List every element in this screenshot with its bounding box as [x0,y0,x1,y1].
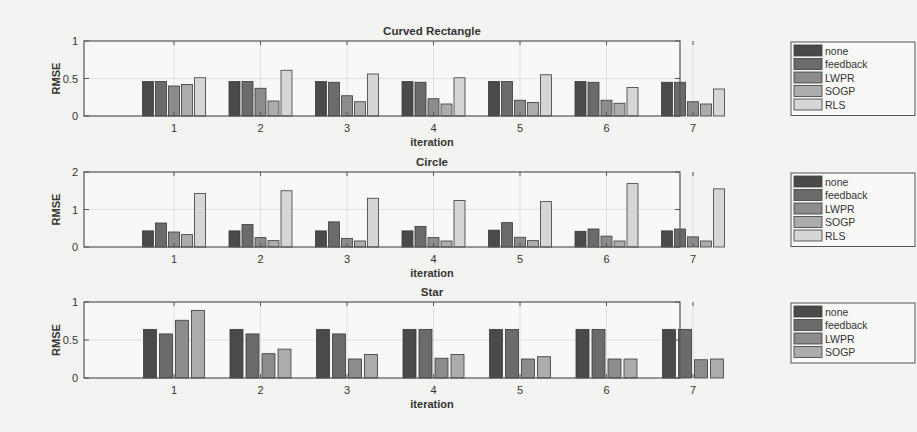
bar-sogp-iter-5 [528,103,539,117]
x-tick-label: 1 [171,122,177,134]
x-tick-label: 2 [257,384,263,396]
bar-feedback-iter-4 [415,226,426,247]
bar-lwpr-iter-4 [435,358,448,378]
legend-label-feedback: feedback [825,58,868,70]
bar-rls-iter-5 [541,202,552,247]
bar-sogp-iter-2 [278,349,291,378]
bar-feedback-iter-5 [502,223,513,247]
bar-lwpr-iter-1 [176,320,189,378]
x-tick-label: 4 [430,122,436,134]
bar-sogp-iter-7 [701,104,712,116]
legend-swatch-sogp [794,347,822,358]
x-tick-label: 3 [344,253,350,265]
legend-swatch-sogp [794,217,822,228]
bar-rls-iter-7 [714,189,725,247]
chart-panel-circle: 1234567012RMSEiterationCirclenonefeedbac… [50,156,915,279]
bar-rls-iter-1 [195,193,206,247]
bar-feedback-iter-2 [242,225,253,248]
bar-feedback-iter-1 [156,223,167,247]
legend-label-none: none [825,176,849,188]
chart-panel-star: 123456700.51RMSEiterationStarnonefeedbac… [50,286,915,410]
bar-sogp-iter-1 [192,310,205,378]
bar-sogp-iter-7 [701,241,712,247]
bar-lwpr-iter-5 [522,359,535,378]
bar-feedback-iter-2 [246,334,259,378]
y-axis-label: RMSE [50,324,62,356]
y-tick-label: 0.5 [63,73,78,85]
legend-swatch-rls [794,230,822,241]
bar-rls-iter-4 [454,201,465,248]
legend-swatch-feedback [794,320,822,331]
bar-feedback-iter-1 [160,334,173,378]
bar-none-iter-1 [143,231,154,247]
legend-label-sogp: SOGP [825,346,855,358]
bar-none-iter-5 [489,230,500,247]
bar-lwpr-iter-2 [262,354,275,378]
y-tick-label: 0 [72,110,78,122]
legend-label-lwpr: LWPR [825,72,855,84]
bar-feedback-iter-6 [592,329,605,378]
bar-sogp-iter-3 [355,102,366,116]
x-tick-label: 7 [690,122,696,134]
legend-swatch-rls [794,99,822,110]
bar-feedback-iter-3 [333,334,346,378]
legend-swatch-none [794,45,822,56]
bar-sogp-iter-4 [441,104,452,116]
bar-none-iter-4 [402,231,413,247]
bar-feedback-iter-4 [415,82,426,116]
legend-swatch-none [794,176,822,187]
bar-rls-iter-6 [627,88,638,117]
bar-rls-iter-6 [627,184,638,247]
bar-none-iter-3 [316,82,327,117]
bar-none-iter-2 [229,231,240,247]
bar-sogp-iter-2 [268,241,279,247]
legend-label-none: none [825,306,849,318]
bar-rls-iter-3 [368,198,379,247]
legend-label-rls: RLS [825,230,845,242]
y-tick-label: 1 [72,204,78,216]
legend-swatch-lwpr [794,203,822,214]
x-tick-label: 3 [344,122,350,134]
bar-rls-iter-2 [281,70,292,116]
x-tick-label: 5 [517,384,523,396]
chart-panel-curved-rectangle: 123456700.51RMSEiterationCurved Rectangl… [50,25,915,148]
bar-sogp-iter-5 [528,241,539,247]
bar-lwpr-iter-3 [349,359,362,378]
bar-sogp-iter-1 [182,85,193,117]
bar-lwpr-iter-6 [608,359,621,378]
bar-lwpr-iter-1 [169,86,180,116]
bar-none-iter-4 [402,82,413,117]
legend-label-rls: RLS [825,99,845,111]
x-tick-label: 3 [344,384,350,396]
bar-feedback-iter-1 [156,82,167,117]
bar-none-iter-6 [576,329,589,378]
bar-none-iter-7 [663,329,676,378]
bar-feedback-iter-6 [588,82,599,116]
bar-rls-iter-4 [454,78,465,116]
y-tick-label: 0.5 [63,334,78,346]
bar-none-iter-6 [575,231,586,247]
legend-label-sogp: SOGP [825,85,855,97]
y-tick-label: 1 [72,35,78,47]
x-tick-label: 2 [257,122,263,134]
y-axis-label: RMSE [50,63,62,95]
bar-none-iter-3 [317,329,330,378]
x-tick-label: 2 [257,253,263,265]
bar-none-iter-5 [490,329,503,378]
bar-feedback-iter-3 [329,222,340,247]
x-axis-label: iteration [410,398,454,410]
bar-lwpr-iter-2 [255,88,266,116]
x-axis-label: iteration [410,136,454,148]
chart-title: Circle [416,156,448,168]
bar-none-iter-2 [229,82,240,117]
legend-swatch-lwpr [794,72,822,83]
bar-feedback-iter-5 [502,82,513,117]
x-tick-label: 4 [430,384,436,396]
bar-rls-iter-5 [541,75,552,116]
bar-none-iter-7 [662,82,673,116]
bar-sogp-iter-7 [711,359,724,378]
y-tick-label: 1 [72,296,78,308]
legend-swatch-feedback [794,190,822,201]
legend-swatch-none [794,306,822,317]
legend-swatch-feedback [794,59,822,70]
